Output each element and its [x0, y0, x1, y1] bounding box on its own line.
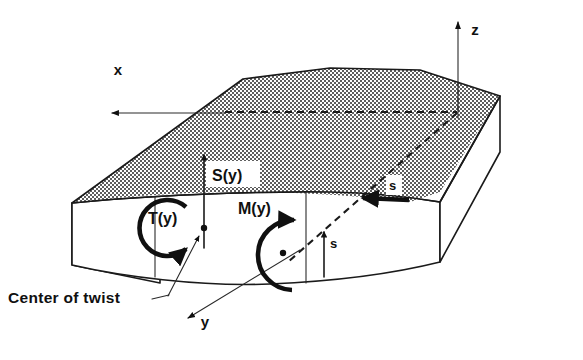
- bending-moment-label: M(y): [238, 200, 271, 217]
- y-axis-label: y: [201, 313, 210, 330]
- x-axis-label: x: [114, 61, 123, 78]
- distributed-load-top-label: s: [389, 178, 396, 193]
- center-of-twist-label-dash: [152, 295, 169, 299]
- beam-twist-diagram: z x y S(y) T(y) M(y) s s Center: [0, 0, 583, 360]
- bending-moment-axis-point: [280, 250, 286, 256]
- distributed-load-front-label: s: [330, 236, 337, 251]
- torque-label: T(y): [148, 210, 177, 227]
- figure-root: z x y S(y) T(y) M(y) s s Center: [0, 0, 583, 360]
- center-of-twist-label: Center of twist: [8, 289, 120, 306]
- shear-force-label: S(y): [212, 167, 242, 184]
- center-of-twist-point: [201, 225, 207, 231]
- z-axis-label: z: [471, 21, 479, 38]
- distributed-load-top-arrow: [363, 198, 409, 200]
